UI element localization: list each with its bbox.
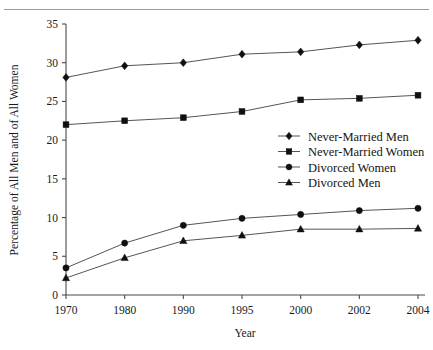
circle-marker: [239, 215, 245, 221]
series-line: [66, 40, 418, 77]
square-marker: [239, 109, 245, 115]
diamond-marker: [121, 62, 127, 70]
y-tick-label: 10: [47, 212, 59, 224]
line-chart-figure: 05101520253035 1970198019901995200020022…: [0, 0, 433, 350]
y-tick-label: 15: [47, 173, 59, 185]
diamond-marker: [180, 59, 186, 67]
chart-canvas: 05101520253035 1970198019901995200020022…: [0, 0, 433, 350]
legend-label: Divorced Women: [308, 161, 397, 175]
x-tick-label: 1995: [231, 304, 254, 316]
y-tick-label: 5: [52, 250, 58, 262]
circle-marker: [298, 211, 304, 217]
x-axis-ticks: 1970198019901995200020022004: [55, 295, 430, 316]
triangle-marker: [286, 179, 293, 185]
circle-marker: [415, 205, 421, 211]
circle-marker: [122, 240, 128, 246]
series-1: [63, 36, 421, 81]
diamond-marker: [239, 50, 245, 58]
legend-item-2: Never-Married Women: [278, 145, 425, 159]
series-4: [62, 225, 421, 281]
x-tick-label: 1980: [113, 304, 136, 316]
triangle-marker: [414, 225, 421, 232]
x-tick-label: 2000: [289, 304, 312, 316]
triangle-marker: [297, 225, 304, 232]
circle-marker: [356, 208, 362, 214]
circle-marker: [180, 222, 186, 228]
square-marker: [415, 92, 421, 98]
y-tick-label: 35: [47, 18, 59, 30]
legend-item-4: Divorced Men: [278, 176, 381, 190]
diamond-marker: [415, 36, 421, 44]
legend-label: Never-Married Women: [308, 145, 425, 159]
circle-marker: [286, 164, 292, 170]
y-tick-label: 30: [47, 57, 59, 69]
x-tick-label: 1990: [172, 304, 195, 316]
series-2: [63, 92, 421, 127]
diamond-marker: [63, 74, 69, 82]
y-tick-label: 25: [47, 95, 59, 107]
y-tick-label: 0: [52, 289, 58, 301]
square-marker: [180, 115, 186, 121]
legend-item-1: Never-Married Men: [278, 130, 409, 144]
circle-marker: [63, 265, 69, 271]
legend-label: Never-Married Men: [308, 130, 409, 144]
square-marker: [298, 97, 304, 103]
square-marker: [122, 118, 128, 124]
legend-label: Divorced Men: [308, 176, 381, 190]
square-marker: [286, 149, 292, 155]
diamond-marker: [356, 41, 362, 49]
y-axis-ticks: 05101520253035: [47, 18, 67, 301]
diamond-marker: [297, 48, 303, 56]
x-tick-label: 2002: [348, 304, 371, 316]
square-marker: [63, 122, 69, 128]
square-marker: [356, 95, 362, 101]
x-tick-label: 1970: [55, 304, 78, 316]
y-tick-label: 20: [47, 134, 59, 146]
diamond-marker: [286, 132, 292, 139]
x-axis-title: Year: [234, 327, 255, 339]
legend-item-3: Divorced Women: [278, 161, 397, 175]
chart-legend: Never-Married MenNever-Married WomenDivo…: [278, 130, 425, 191]
x-tick-label: 2004: [407, 304, 430, 316]
y-axis-title: Percentage of All Men and of All Women: [8, 64, 21, 255]
